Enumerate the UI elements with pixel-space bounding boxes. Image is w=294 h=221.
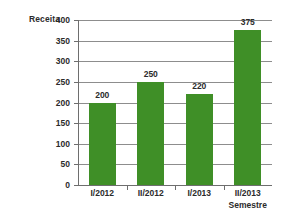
plot-area: 200250220375 (78, 20, 272, 186)
bar-chart: Receita 050100150200250300350400 2002502… (0, 0, 294, 221)
x-tick-mark (127, 186, 128, 190)
y-tick-mark (74, 144, 79, 145)
y-tick-label: 200 (56, 98, 70, 108)
y-tick-label: 150 (56, 118, 70, 128)
x-tick-mark (175, 186, 176, 190)
bar-value-label: 220 (192, 81, 206, 91)
y-tick-mark (74, 185, 79, 186)
x-axis-title: Semestre (229, 200, 267, 210)
bar-value-label: 200 (95, 90, 109, 100)
y-tick-label: 350 (56, 36, 70, 46)
y-tick-mark (74, 61, 79, 62)
bar[interactable] (186, 94, 213, 185)
x-category-label: II/2012 (138, 188, 164, 198)
y-tick-label: 0 (65, 180, 70, 190)
y-tick-mark (74, 20, 79, 21)
x-category-label: I/2012 (90, 188, 114, 198)
y-axis-tick-labels: 050100150200250300350400 (0, 20, 74, 186)
bar[interactable] (89, 103, 116, 186)
x-tick-mark (224, 186, 225, 190)
y-tick-mark (74, 103, 79, 104)
y-tick-label: 50 (61, 159, 70, 169)
y-tick-label: 250 (56, 77, 70, 87)
y-tick-mark (74, 164, 79, 165)
bar[interactable] (137, 82, 164, 185)
bar-value-label: 250 (144, 69, 158, 79)
y-tick-label: 400 (56, 15, 70, 25)
bar-value-label: 375 (241, 17, 255, 27)
y-tick-label: 300 (56, 56, 70, 66)
y-tick-label: 100 (56, 139, 70, 149)
y-tick-mark (74, 82, 79, 83)
y-tick-mark (74, 123, 79, 124)
x-category-label: II/2013 (235, 188, 261, 198)
bar[interactable] (234, 30, 261, 185)
x-category-label: I/2013 (187, 188, 211, 198)
y-tick-mark (74, 41, 79, 42)
